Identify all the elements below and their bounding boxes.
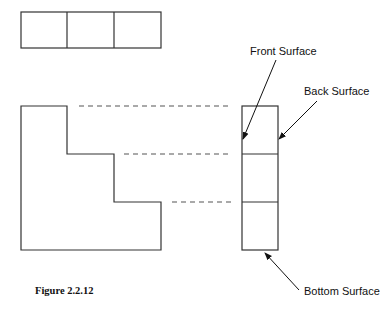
front-arrow bbox=[243, 60, 276, 139]
back-surface-label: Back Surface bbox=[304, 85, 369, 97]
back-arrow bbox=[279, 101, 317, 139]
top-view bbox=[21, 12, 161, 48]
diagram-canvas bbox=[0, 0, 389, 311]
bottom-arrow bbox=[265, 253, 299, 290]
bottom-surface-label: Bottom Surface bbox=[304, 285, 380, 297]
front-view-l-shape bbox=[21, 106, 161, 250]
front-surface-label: Front Surface bbox=[250, 45, 317, 57]
figure-caption: Figure 2.2.12 bbox=[35, 285, 93, 296]
